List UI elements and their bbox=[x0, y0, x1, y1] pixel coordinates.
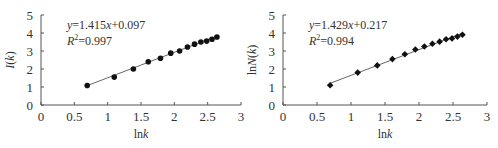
x-tick-label: 2.5 bbox=[445, 109, 461, 124]
data-point bbox=[158, 55, 164, 61]
x-tick-label: 0.5 bbox=[309, 109, 325, 124]
data-point bbox=[84, 83, 90, 89]
x-tick-label: 2.5 bbox=[200, 109, 216, 124]
y-tick-label: 3 bbox=[269, 44, 276, 59]
r-squared: R2=0.994 bbox=[308, 33, 354, 48]
y-axis-title: I(k) bbox=[3, 51, 17, 69]
y-tick-label: 1 bbox=[269, 80, 276, 95]
data-point bbox=[198, 39, 204, 45]
data-point bbox=[436, 38, 443, 45]
y-tick-label: 4 bbox=[269, 26, 276, 41]
y-tick-label: 4 bbox=[27, 26, 34, 41]
x-tick-label: 1.5 bbox=[377, 109, 393, 124]
x-tick-label: 1 bbox=[104, 109, 111, 124]
x-tick-label: 1 bbox=[348, 109, 355, 124]
r-squared: R2=0.997 bbox=[66, 33, 112, 48]
y-axis-title: lnN(k) bbox=[245, 45, 259, 76]
x-tick-label: 1.5 bbox=[133, 109, 149, 124]
data-point bbox=[354, 69, 361, 76]
y-tick-label: 2 bbox=[269, 62, 276, 77]
figure: 01234500.511.522.53y=1.415x+0.097R2=0.99… bbox=[0, 0, 498, 148]
data-point bbox=[443, 36, 450, 43]
x-tick-label: 0 bbox=[38, 109, 45, 124]
data-point bbox=[429, 41, 436, 48]
data-point bbox=[402, 51, 409, 58]
charts-canvas: 01234500.511.522.53y=1.415x+0.097R2=0.99… bbox=[0, 0, 498, 148]
data-point bbox=[185, 44, 191, 50]
data-point bbox=[168, 50, 174, 56]
data-point bbox=[131, 66, 137, 72]
data-point bbox=[111, 74, 117, 80]
y-tick-label: 1 bbox=[27, 80, 34, 95]
chart-1: 01234500.511.522.53y=1.415x+0.097R2=0.99… bbox=[3, 8, 244, 142]
regression-equation: y=1.415x+0.097 bbox=[66, 18, 145, 32]
data-point bbox=[192, 41, 198, 47]
data-point bbox=[209, 37, 215, 43]
data-point bbox=[327, 82, 334, 89]
y-tick-label: 3 bbox=[27, 44, 34, 59]
x-tick-label: 0 bbox=[280, 109, 287, 124]
y-tick-label: 0 bbox=[269, 98, 276, 113]
y-tick-label: 5 bbox=[269, 8, 276, 23]
x-tick-label: 3 bbox=[238, 109, 245, 124]
data-point bbox=[214, 34, 220, 40]
data-point bbox=[145, 59, 151, 65]
y-tick-label: 5 bbox=[27, 8, 34, 23]
y-tick-label: 2 bbox=[27, 62, 34, 77]
x-tick-label: 0.5 bbox=[66, 109, 82, 124]
chart-2: 01234500.511.522.53y=1.429x+0.217R2=0.99… bbox=[245, 8, 490, 142]
data-point bbox=[177, 48, 183, 54]
y-tick-label: 0 bbox=[27, 98, 34, 113]
data-point bbox=[374, 62, 381, 69]
x-tick-label: 3 bbox=[484, 109, 491, 124]
x-axis-title: lnk bbox=[134, 127, 149, 141]
data-point bbox=[204, 38, 210, 44]
x-tick-label: 2 bbox=[171, 109, 178, 124]
data-point bbox=[389, 56, 396, 63]
x-axis-title: lnk bbox=[378, 127, 393, 141]
x-tick-label: 2 bbox=[416, 109, 423, 124]
regression-equation: y=1.429x+0.217 bbox=[308, 18, 387, 32]
